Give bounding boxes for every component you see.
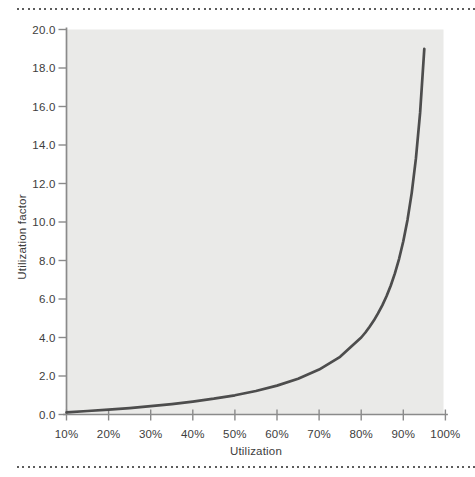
y-axis-title: Utilization factor xyxy=(16,194,28,279)
y-tick-label: 0.0 xyxy=(39,409,56,421)
bottom-dotted-rule xyxy=(17,466,475,468)
x-tick-label: 60% xyxy=(265,428,289,440)
y-tick-labels: 0.02.04.06.08.010.012.014.016.018.020.0 xyxy=(32,24,55,421)
x-tick-label: 70% xyxy=(307,428,331,440)
y-ticks xyxy=(59,30,67,415)
plot-area xyxy=(67,30,444,415)
x-tick-label: 50% xyxy=(223,428,247,440)
y-tick-label: 20.0 xyxy=(32,24,55,36)
y-tick-label: 4.0 xyxy=(39,332,56,344)
x-tick-label: 10% xyxy=(55,428,79,440)
y-tick-label: 14.0 xyxy=(32,139,55,151)
x-tick-labels: 10%20%30%40%50%60%70%80%90%100% xyxy=(55,428,461,440)
y-axis: 0.02.04.06.08.010.012.014.016.018.020.0 xyxy=(32,24,66,421)
x-axis-title: Utilization xyxy=(230,445,282,457)
x-tick-label: 30% xyxy=(139,428,163,440)
y-tick-label: 18.0 xyxy=(32,62,55,74)
x-tick-label: 80% xyxy=(349,428,373,440)
y-tick-label: 10.0 xyxy=(32,216,55,228)
y-tick-label: 8.0 xyxy=(39,255,56,267)
x-tick-label: 100% xyxy=(430,428,460,440)
figure: 0.02.04.06.08.010.012.014.016.018.020.0 … xyxy=(0,0,475,477)
x-tick-label: 90% xyxy=(391,428,415,440)
y-tick-label: 6.0 xyxy=(39,293,56,305)
x-axis: 10%20%30%40%50%60%70%80%90%100% xyxy=(55,410,461,440)
y-tick-label: 2.0 xyxy=(39,370,56,382)
y-tick-label: 12.0 xyxy=(32,178,55,190)
x-tick-label: 40% xyxy=(181,428,205,440)
utilization-chart: 0.02.04.06.08.010.012.014.016.018.020.0 … xyxy=(0,0,475,477)
y-tick-label: 16.0 xyxy=(32,101,55,113)
x-tick-label: 20% xyxy=(97,428,121,440)
